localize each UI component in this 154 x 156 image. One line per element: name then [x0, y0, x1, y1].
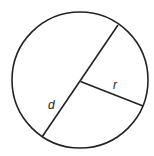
circle-diagram: d r [0, 0, 154, 156]
diameter-line [42, 25, 118, 137]
diameter-label: d [48, 98, 55, 112]
radius-line [81, 82, 144, 107]
radius-label: r [113, 78, 118, 92]
